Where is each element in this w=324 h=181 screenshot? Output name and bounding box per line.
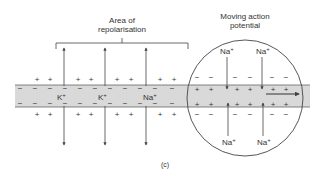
svg-text:+: + [235,85,240,94]
svg-text:+: + [195,85,200,94]
svg-text:−: − [48,99,53,108]
svg-text:−: − [78,84,83,93]
svg-text:+: + [129,110,134,119]
svg-text:−: − [123,99,128,108]
svg-text:+: + [76,110,81,119]
svg-text:−: − [270,73,275,82]
svg-text:−: − [153,99,158,108]
svg-text:+: + [248,85,253,94]
svg-text:−: − [18,84,23,93]
svg-text:−: − [123,84,128,93]
svg-text:−: − [108,84,113,93]
svg-text:−: − [270,110,275,119]
repolarisation-label-line2: repolarisation [98,25,146,34]
svg-text:−: − [138,84,143,93]
repolarisation-label-line1: Area of [109,16,136,25]
svg-text:−: − [63,84,68,93]
svg-text:+: + [172,75,177,84]
svg-text:+: + [271,100,276,109]
action-potential-label-line2: potential [230,21,260,30]
nerve-impulse-diagram: Area of repolarisation Moving action pot… [0,0,324,181]
depolarised-outer-top: − − − − − − [195,73,289,82]
svg-text:+: + [35,75,40,84]
outer-charges-bottom: + + + + + + + + [35,110,177,119]
svg-text:+: + [158,110,163,119]
svg-text:−: − [93,99,98,108]
svg-text:−: − [248,110,253,119]
svg-text:−: − [209,73,214,82]
na-label-bottom-left: Na+ [222,137,236,147]
svg-text:−: − [48,84,53,93]
svg-text:+: + [48,75,53,84]
figure-caption: (c) [161,161,169,169]
svg-text:+: + [76,75,81,84]
svg-text:+: + [89,75,94,84]
svg-text:+: + [235,100,240,109]
svg-text:−: − [170,84,175,93]
svg-text:+: + [209,100,214,109]
svg-text:−: − [138,99,143,108]
svg-text:−: − [195,73,200,82]
svg-text:+: + [271,85,276,94]
repolarisation-bracket [56,38,188,49]
svg-text:−: − [108,99,113,108]
svg-text:−: − [209,110,214,119]
svg-text:+: + [195,100,200,109]
svg-text:+: + [115,110,120,119]
svg-text:+: + [172,110,177,119]
svg-text:−: − [18,99,23,108]
svg-text:+: + [48,110,53,119]
outer-charges-top: + + + + + + + + [35,75,177,84]
svg-text:−: − [33,99,38,108]
svg-text:−: − [153,84,158,93]
svg-text:+: + [284,85,289,94]
svg-text:+: + [284,100,289,109]
svg-text:−: − [284,110,289,119]
svg-text:−: − [248,73,253,82]
svg-text:−: − [233,73,238,82]
svg-text:−: − [233,110,238,119]
svg-text:−: − [93,84,98,93]
depolarised-outer-bottom: − − − − − − [195,110,289,119]
na-label-top-right: Na+ [256,46,270,56]
svg-text:+: + [209,85,214,94]
action-potential-label-line1: Moving action [220,12,269,21]
na-label-bottom-right: Na+ [257,137,271,147]
na-label-top-left: Na+ [220,46,234,56]
svg-text:−: − [78,99,83,108]
svg-text:+: + [248,100,253,109]
svg-text:+: + [158,75,163,84]
svg-text:−: − [170,99,175,108]
svg-text:+: + [129,75,134,84]
svg-text:−: − [33,84,38,93]
svg-text:−: − [63,99,68,108]
svg-text:−: − [195,110,200,119]
svg-text:−: − [284,73,289,82]
svg-text:+: + [115,75,120,84]
svg-text:+: + [89,110,94,119]
svg-text:+: + [35,110,40,119]
